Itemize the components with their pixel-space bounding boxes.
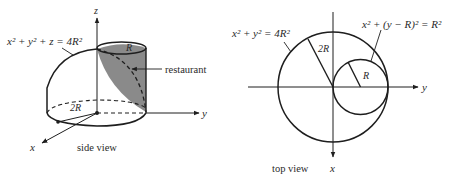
small-circle-equation: x² + (y − R)² = R² bbox=[361, 18, 442, 31]
side-z-label: z bbox=[93, 5, 98, 16]
base-point-dot bbox=[56, 120, 60, 124]
small-radius-line bbox=[348, 62, 361, 87]
diagram-canvas: x² + y² + z = 4R² z y x 2R R restaurant … bbox=[0, 0, 455, 178]
base-ellipse-front bbox=[47, 113, 146, 126]
side-y-label: y bbox=[201, 107, 207, 119]
top-view-figure: x² + y² = 4R² x² + (y − R)² = R² 2R R y … bbox=[231, 12, 442, 174]
big-circle-equation: x² + y² = 4R² bbox=[231, 27, 290, 39]
top-x-label: x bbox=[329, 162, 335, 174]
top-y-label: y bbox=[421, 81, 427, 93]
side-radius-label: 2R bbox=[70, 102, 81, 113]
side-view-caption: side view bbox=[77, 142, 117, 153]
origin-dot bbox=[95, 111, 99, 115]
top-view-caption: top view bbox=[272, 163, 309, 174]
small-radius-label: R bbox=[362, 70, 369, 81]
big-radius-label: 2R bbox=[318, 43, 329, 54]
equation-leader-line bbox=[62, 48, 73, 55]
side-surface-equation: x² + y² + z = 4R² bbox=[6, 35, 83, 47]
restaurant-label: restaurant bbox=[165, 64, 206, 75]
big-circle-leader bbox=[284, 42, 291, 52]
diagram-stage: x² + y² + z = 4R² z y x 2R R restaurant … bbox=[0, 0, 455, 178]
cylinder-radius-label: R bbox=[125, 42, 132, 53]
side-x-label: x bbox=[29, 141, 35, 153]
side-view-figure: x² + y² + z = 4R² z y x 2R R restaurant … bbox=[6, 5, 207, 153]
radius-2r-line bbox=[58, 113, 97, 122]
